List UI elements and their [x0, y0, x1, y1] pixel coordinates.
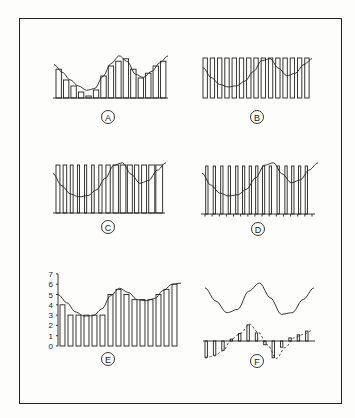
pulse: [142, 165, 147, 213]
difference-bar: [222, 341, 224, 350]
svg-text:C: C: [105, 223, 112, 233]
pulse: [269, 166, 271, 214]
waveform: [203, 59, 312, 87]
pulse: [261, 58, 265, 98]
svg-text:E: E: [105, 355, 111, 365]
sample-bar: [161, 61, 166, 98]
sample-bar: [71, 86, 76, 98]
quantized-bar: [164, 289, 169, 346]
sample-bar: [123, 59, 128, 98]
sample-bar: [86, 96, 91, 98]
pulse: [283, 58, 287, 98]
quantized-bar: [60, 305, 65, 346]
panel-d: [201, 163, 318, 217]
pulse: [285, 166, 287, 214]
label-d: D: [252, 223, 265, 236]
pulse: [92, 165, 94, 213]
panel-a: [53, 56, 168, 98]
pulse: [277, 166, 279, 214]
pulse: [85, 165, 87, 213]
pulse: [249, 166, 251, 214]
quantized-bar: [132, 300, 137, 346]
pulse: [56, 165, 60, 213]
pulse: [225, 58, 229, 98]
difference-bar: [255, 333, 257, 341]
pulse: [256, 166, 258, 214]
pulse: [127, 165, 132, 213]
label-e: E: [102, 353, 115, 366]
difference-bar: [247, 325, 249, 341]
quantized-bar: [156, 295, 161, 347]
difference-bar: [213, 341, 215, 355]
pulse: [290, 58, 294, 98]
pulse: [228, 166, 230, 214]
quantized-bar: [148, 300, 153, 346]
pulse: [70, 165, 73, 213]
pulse: [247, 58, 251, 98]
quantized-bar: [92, 315, 97, 346]
pulse: [254, 58, 258, 98]
y-tick-label: 3: [49, 311, 54, 320]
panel-f: [203, 283, 315, 359]
sample-bar: [56, 69, 61, 98]
difference-bar: [205, 341, 207, 357]
sample-bar: [108, 66, 113, 98]
y-tick-label: 5: [49, 291, 54, 300]
difference-bar: [280, 341, 282, 347]
sample-bar: [153, 66, 158, 98]
sample-bar: [138, 78, 143, 98]
sample-bar: [63, 80, 68, 98]
sample-bar: [116, 61, 121, 98]
pulse: [149, 165, 155, 213]
y-tick-label: 2: [49, 321, 54, 330]
pulse: [206, 166, 208, 214]
quantized-bar: [108, 295, 113, 347]
pulse: [297, 58, 301, 98]
quantized-bar: [68, 315, 73, 346]
svg-text:B: B: [254, 113, 260, 123]
panel-e-axis-ticks: 01234567: [49, 270, 58, 351]
pulse: [113, 165, 118, 213]
pulse: [239, 58, 243, 98]
pulse: [292, 166, 294, 214]
panel-e: [58, 274, 181, 346]
quantized-bar: [140, 300, 145, 346]
difference-bar: [297, 335, 299, 341]
svg-text:A: A: [105, 113, 111, 123]
sample-bar: [101, 76, 106, 98]
pulse: [77, 165, 79, 213]
pulse: [120, 165, 126, 213]
pulse: [218, 58, 222, 98]
quantized-bar: [172, 284, 177, 346]
pulse: [262, 166, 264, 214]
pulse: [203, 58, 207, 98]
sample-bar: [78, 92, 83, 98]
y-tick-label: 0: [49, 342, 54, 351]
pulse: [298, 166, 300, 214]
label-c: C: [102, 221, 115, 234]
sample-bar: [131, 69, 136, 98]
difference-bar: [239, 334, 241, 341]
label-a: A: [102, 111, 115, 124]
quantized-bar: [76, 315, 81, 346]
quantized-bar: [124, 295, 129, 347]
pulse: [213, 166, 215, 214]
panel-c: [53, 163, 166, 213]
pulse: [156, 165, 163, 213]
sample-bar: [93, 90, 98, 98]
y-tick-label: 1: [49, 332, 54, 341]
y-tick-label: 7: [49, 270, 54, 279]
pulse: [232, 58, 236, 98]
label-f: F: [251, 355, 264, 368]
label-b: B: [251, 111, 264, 124]
pulse: [268, 58, 272, 98]
quantized-bar: [116, 289, 121, 346]
y-tick-label: 4: [49, 301, 54, 310]
pulse: [236, 166, 238, 214]
diagram-canvas: A B C D E F 01234567: [0, 0, 355, 418]
pulse: [99, 165, 102, 213]
y-tick-label: 6: [49, 280, 54, 289]
svg-text:F: F: [254, 357, 260, 367]
waveform: [58, 283, 181, 316]
panel-b: [203, 58, 312, 98]
